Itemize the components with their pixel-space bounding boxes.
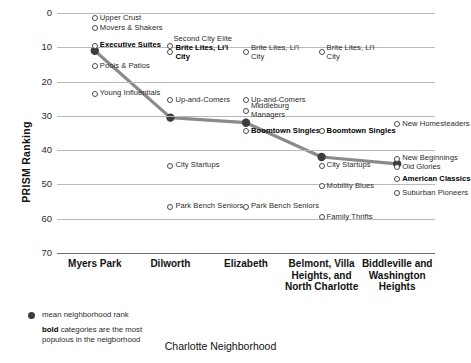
segment-label: Young Influentials [100, 89, 161, 98]
gridline [57, 116, 435, 117]
segment-label: Up-and-Comers [175, 96, 230, 105]
segment-point [243, 204, 249, 210]
segment-point [92, 43, 98, 49]
x-category-label: Biddleville and Washington Heights [359, 258, 435, 293]
segment-point [243, 108, 249, 114]
segment-label: City Startups [327, 161, 371, 170]
segment-label: Movers & Shakers [100, 24, 163, 33]
x-category-label: Belmont, Villa Heights, and North Charlo… [284, 258, 360, 293]
segment-label: Boomtown Singles [327, 127, 396, 136]
y-tick-label: 20 [14, 76, 52, 87]
segment-label: New Homesteaders [402, 120, 469, 129]
segment-point [167, 163, 173, 169]
segment-label: Family Thrifts [327, 213, 373, 222]
legend-mean-row: mean neighborhood rank [28, 310, 228, 319]
gridline [57, 219, 435, 220]
gridline [57, 184, 435, 185]
segment-label: Park Bench Seniors [251, 202, 319, 211]
segment-label: Brite Lites, Li'l City [175, 44, 231, 61]
segment-point [319, 128, 325, 134]
gridline [57, 150, 435, 151]
y-tick-label: 70 [14, 247, 52, 258]
legend-mean-label: mean neighborhood rank [42, 310, 129, 319]
segment-label: Pools & Patios [100, 62, 150, 71]
segment-point [92, 91, 98, 97]
gridline [57, 82, 435, 83]
segment-point [92, 15, 98, 21]
mean-rank-point [317, 153, 325, 161]
segment-label: Executive Suites [100, 41, 161, 50]
x-axis-line [57, 253, 435, 254]
segment-label: Old Glories [402, 163, 441, 172]
segment-point [319, 214, 325, 220]
segment-label: City Startups [175, 161, 219, 170]
segment-label: Boomtown Singles [251, 127, 320, 136]
y-tick-label: 40 [14, 144, 52, 155]
y-tick-label: 30 [14, 110, 52, 121]
segment-point [92, 63, 98, 69]
segment-label: Park Bench Seniors [175, 202, 243, 211]
x-category-label: Elizabeth [208, 258, 284, 270]
mean-rank-point [166, 113, 174, 121]
x-category-label: Dilworth [133, 258, 209, 270]
legend-note-text: categories are the most populous in the … [42, 325, 142, 344]
segment-label: Brite Lites, Li'l City [327, 44, 383, 61]
y-tick-label: 0 [14, 7, 52, 18]
y-tick-label: 60 [14, 213, 52, 224]
segment-point [394, 156, 400, 162]
segment-point [319, 183, 325, 189]
y-tick-label: 50 [14, 178, 52, 189]
x-category-label: Myers Park [57, 258, 133, 270]
y-tick-label: 10 [14, 41, 52, 52]
segment-label: Second City Elite [173, 35, 232, 44]
mean-rank-point [242, 119, 250, 127]
chart-legend: mean neighborhood rank bold categories a… [28, 310, 228, 345]
segment-label: Upper Crust [100, 14, 142, 23]
segment-point [167, 43, 173, 49]
legend-bold-note: bold categories are the most populous in… [42, 325, 162, 344]
segment-label: American Classics [402, 175, 470, 184]
mean-marker-icon [28, 312, 35, 319]
segment-label: Mobility Blues [327, 182, 375, 191]
segment-label: Suburban Pioneers [402, 189, 468, 198]
segment-label: Brite Lites, Li'l City [251, 44, 307, 61]
plot-area: Upper CrustMovers & ShakersExecutive Sui… [57, 13, 435, 253]
segment-label: Middleburg Managers [251, 102, 307, 119]
segment-point [319, 163, 325, 169]
legend-note-bold-word: bold [42, 325, 58, 334]
